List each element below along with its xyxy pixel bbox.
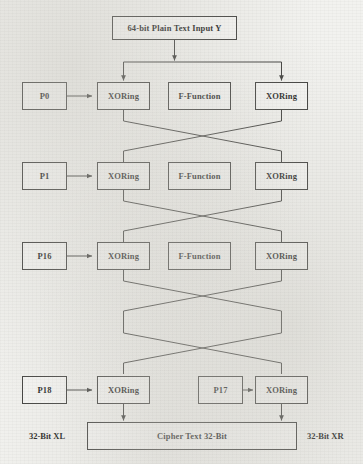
xor-box-round3-right: XORing [255,242,308,270]
subkey-box-p17: P17 [198,376,243,404]
f-function-label-round2: F-Function [178,172,220,181]
subkey-label-p17: P17 [213,386,227,395]
subkey-box-p0: P0 [22,82,67,110]
plaintext-input-box: 64-bit Plain Text Input Y [112,16,237,40]
xor-label-round2-left: XORing [108,172,139,181]
edge-cross-r2-right-to-r3-left [124,190,282,242]
f-function-label-round1: F-Function [178,92,220,101]
subkey-label-p16: P16 [37,252,51,261]
subkey-box-p18: P18 [22,376,67,404]
side-label-right-xr: 32-Bit XR [307,432,344,441]
xor-box-round1-right: XORing [255,82,308,110]
ciphertext-output-box: Cipher Text 32-Bit [87,422,297,450]
side-label-left-xl: 32-Bit XL [29,432,65,441]
xor-label-final-right: XORing [266,386,297,395]
subkey-box-p16: P16 [22,242,67,270]
f-function-box-round2: F-Function [168,162,231,190]
subkey-label-p1: P1 [40,172,50,181]
xor-box-round2-right: XORing [255,162,308,190]
xor-label-round2-right: XORing [266,172,297,181]
edge-cross-mid-right-to-final-left [124,322,282,374]
xor-label-round1-right: XORing [266,92,297,101]
xor-box-final-left: XORing [97,376,150,404]
xor-label-final-left: XORing [108,386,139,395]
plaintext-input-label: 64-bit Plain Text Input Y [127,24,221,33]
xor-box-final-right: XORing [255,376,308,404]
subkey-label-p0: P0 [40,92,50,101]
xor-box-round2-left: XORing [97,162,150,190]
edge-cross-r3-right-to-mid-left [124,270,282,322]
xor-label-round3-right: XORing [266,252,297,261]
f-function-box-round1: F-Function [168,82,231,110]
xor-label-round1-left: XORing [108,92,139,101]
f-function-label-round3: F-Function [178,252,220,261]
subkey-label-p18: P18 [37,386,51,395]
ciphertext-output-label: Cipher Text 32-Bit [157,432,227,441]
xor-box-round1-left: XORing [97,82,150,110]
xor-box-round3-left: XORing [97,242,150,270]
edge-cross-r1-right-to-r2-left [124,110,282,162]
f-function-box-round3: F-Function [168,242,231,270]
subkey-box-p1: P1 [22,162,67,190]
xor-label-round3-left: XORing [108,252,139,261]
